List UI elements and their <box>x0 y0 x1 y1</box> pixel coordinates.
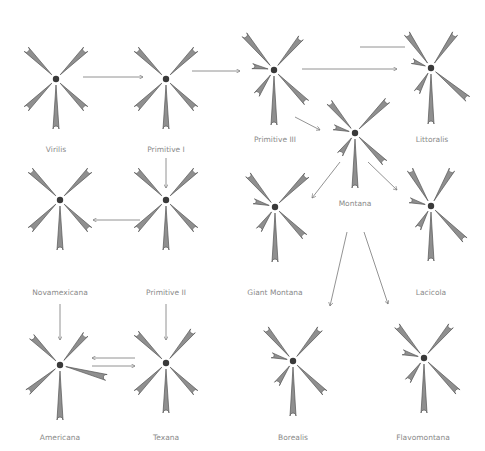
chromosome-arm <box>134 204 162 232</box>
label-borealis: Borealis <box>278 433 308 442</box>
centromere-dot <box>352 130 358 136</box>
chromosome-arm <box>264 327 289 357</box>
chromosome-arm <box>30 335 56 361</box>
centromere-dot <box>163 360 169 366</box>
phylogeny-diagram: Virilis Primitive I Primitive III Littor… <box>0 0 485 451</box>
centromere-dot <box>271 67 277 73</box>
chromosome-arm <box>428 74 434 124</box>
chromosome-arm <box>428 212 434 261</box>
chromosome-arm <box>271 353 287 360</box>
chromosome-arm <box>170 367 198 395</box>
chromosome-arm <box>279 211 307 239</box>
chromosome-arm <box>278 74 308 104</box>
chromosome-arm <box>409 198 425 205</box>
centromere-dot <box>57 362 63 368</box>
chromosome-arm <box>24 83 52 111</box>
chromosome-arm <box>246 173 271 203</box>
label-flavomontana: Flavomontana <box>396 433 450 442</box>
chromosome-arm <box>64 168 92 196</box>
chromosome-arm <box>297 327 322 357</box>
chromosome-arm <box>359 98 389 128</box>
chromosome-arm <box>338 138 352 156</box>
label-americana: Americana <box>40 433 80 442</box>
chromosome-arm <box>435 210 467 242</box>
centromere-dot <box>290 358 296 364</box>
chromosome-arm <box>134 168 162 196</box>
chromosome-arm <box>421 364 427 413</box>
chromosome-arm <box>404 32 427 63</box>
chromosome-arm <box>170 204 198 232</box>
label-primitive-iii: Primitive III <box>254 135 296 144</box>
centromere-dot <box>421 355 427 361</box>
chromosome-arm <box>134 83 162 111</box>
chromosome-arm <box>407 168 428 201</box>
label-giant-montana: Giant Montana <box>247 288 302 297</box>
chromosome-arm <box>170 83 198 111</box>
label-lacicola: Lacicola <box>416 288 446 297</box>
chromosome-arm <box>242 33 270 66</box>
chromosome-arm <box>57 371 63 420</box>
chromosome-arm <box>272 213 278 262</box>
chromosome-arm <box>24 47 52 75</box>
chromosome-arm <box>66 367 107 381</box>
chromosome-arm <box>163 85 169 129</box>
chromosome-arm <box>395 324 420 354</box>
centromere-dot <box>272 204 278 210</box>
label-texana: Texana <box>152 433 179 442</box>
chromosome-arm <box>359 137 387 165</box>
chromosome-arm <box>60 47 88 75</box>
chromosome-arm <box>327 100 351 128</box>
chromosome-arm <box>333 125 349 132</box>
species-labels: Virilis Primitive I Primitive III Littor… <box>32 135 450 442</box>
centromere-dot <box>163 197 169 203</box>
chromosome-arm <box>434 32 457 63</box>
label-virilis: Virilis <box>46 145 66 154</box>
chromosome-arm <box>163 206 169 250</box>
chromosome-arm <box>428 362 460 394</box>
centromere-dot <box>57 197 63 203</box>
label-primitive-ii: Primitive II <box>146 288 186 297</box>
chromosome-arm <box>405 363 420 383</box>
chromosome-arm <box>428 324 453 354</box>
chromosome-arm <box>134 331 162 359</box>
chromosome-arm <box>256 212 271 232</box>
chromosome-arm <box>271 76 277 125</box>
chromosome-arm <box>57 206 63 250</box>
chromosome-arm <box>28 204 56 232</box>
chromosome-arm <box>134 47 162 75</box>
centromere-dot <box>428 65 434 71</box>
chromosome-arm <box>274 366 289 386</box>
label-montana: Montana <box>339 199 372 208</box>
chromosome-arm <box>434 168 455 201</box>
chromosome-arm <box>278 36 303 66</box>
chromosome-arm <box>297 365 327 395</box>
chromosome-arm <box>252 64 268 69</box>
centromere-dot <box>53 76 59 82</box>
chromosome-arm <box>26 369 56 394</box>
centromere-dot <box>428 203 434 209</box>
chromosome-arm <box>64 204 92 232</box>
chromosome-arm <box>254 75 270 96</box>
label-novamexicana: Novamexicana <box>32 288 88 297</box>
chromosome-arm <box>253 199 269 206</box>
label-primitive-i: Primitive I <box>147 145 185 154</box>
label-littoralis: Littoralis <box>416 135 449 144</box>
chromosome-figures <box>24 32 470 420</box>
chromosome-arm <box>53 85 59 129</box>
chromosome-arm <box>60 83 88 111</box>
chromosome-arm <box>28 168 56 196</box>
chromosome-arm <box>414 73 428 94</box>
chromosome-arm <box>170 329 195 359</box>
chromosome-arm <box>352 139 358 188</box>
chromosome-arm <box>290 367 296 416</box>
chromosome-arm <box>411 59 425 66</box>
chromosome-arm <box>436 72 470 101</box>
chromosome-arm <box>402 350 418 357</box>
chromosome-arm <box>279 173 309 203</box>
chromosome-arm <box>170 168 198 196</box>
centromere-dot <box>163 76 169 82</box>
chromosome-arm <box>415 211 428 230</box>
chromosome-arm <box>134 367 162 395</box>
chromosome-arm <box>64 332 88 360</box>
diagram-svg: Virilis Primitive I Primitive III Littor… <box>0 0 485 451</box>
